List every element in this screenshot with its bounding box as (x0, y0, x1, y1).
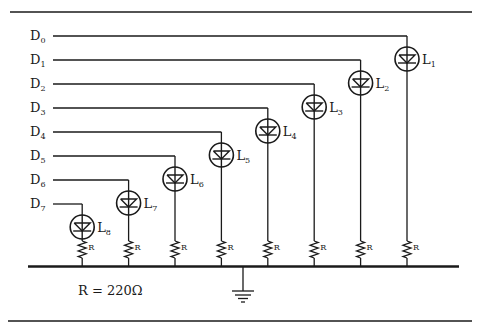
ground-icon (232, 267, 254, 302)
led-label: L8 (97, 220, 111, 237)
resistor-icon (264, 241, 272, 258)
led-label: L2 (376, 76, 390, 93)
resistor-label: R (274, 243, 281, 252)
led-label: L1 (422, 52, 436, 69)
led-icon (256, 119, 280, 143)
input-label-d3: D3 (30, 100, 46, 117)
led-icon (70, 215, 94, 239)
input-label-d1: D1 (30, 52, 46, 69)
input-label-d5: D5 (30, 148, 46, 165)
led-icon (163, 167, 187, 191)
input-label-d0: D0 (30, 28, 46, 45)
input-label-d2: D2 (30, 76, 46, 93)
resistor-label: R (88, 243, 95, 252)
led-icon (302, 95, 326, 119)
resistor-label: R (367, 243, 374, 252)
resistor-icon (78, 241, 86, 258)
channel-l8: L8R (53, 204, 111, 266)
input-label-d4: D4 (30, 124, 46, 141)
led-label: L7 (144, 196, 158, 213)
resistor-icon (125, 241, 133, 258)
resistor-label: R (135, 243, 142, 252)
resistor-icon (171, 241, 179, 258)
resistor-label: R (227, 243, 234, 252)
resistor-label: R (413, 243, 420, 252)
led-icon (209, 143, 233, 167)
led-label: L5 (236, 148, 250, 165)
resistor-icon (357, 241, 365, 258)
resistor-label: R (181, 243, 188, 252)
led-label: L3 (329, 100, 343, 117)
input-label-d6: D6 (30, 172, 46, 189)
resistor-icon (217, 241, 225, 258)
resistor-icon (403, 241, 411, 258)
input-label-d7: D7 (30, 196, 46, 213)
resistor-label: R (320, 243, 327, 252)
led-icon (117, 191, 141, 215)
led-icon (395, 47, 419, 71)
led-circuit-diagram: R = 220Ω D0D1D2D3D4D5D6D7L1RL2RL3RL4RL5R… (0, 0, 481, 327)
led-label: L6 (190, 172, 204, 189)
led-icon (349, 71, 373, 95)
resistor-icon (310, 241, 318, 258)
schematic-svg: R = 220Ω D0D1D2D3D4D5D6D7L1RL2RL3RL4RL5R… (0, 0, 481, 327)
led-label: L4 (283, 124, 297, 141)
resistor-value-note: R = 220Ω (78, 283, 143, 298)
